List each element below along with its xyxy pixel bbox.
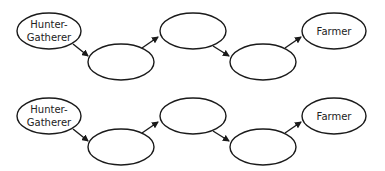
flow-row-1: Hunter- Gatherer Farmer [17, 13, 366, 80]
arrow-icon [285, 37, 301, 48]
node-label: Hunter- [30, 104, 68, 115]
node-blank-step-2[interactable] [160, 98, 226, 134]
arrow-icon [213, 46, 229, 56]
node-blank-step-3[interactable] [230, 129, 296, 165]
node-blank-step-1[interactable] [88, 129, 154, 165]
node-label: Gatherer [27, 32, 72, 43]
arrow-icon [213, 131, 229, 141]
arrow-icon [73, 129, 88, 141]
arrow-icon [285, 122, 301, 133]
node-blank-step-3[interactable] [230, 44, 296, 80]
flow-row-2: Hunter- Gatherer Farmer [17, 98, 366, 165]
node-label: Hunter- [30, 19, 68, 30]
arrow-icon [142, 122, 158, 133]
node-label: Gatherer [27, 117, 72, 128]
diagram-canvas: Hunter- Gatherer Farmer Hunter- Gatherer… [0, 0, 385, 171]
arrow-icon [142, 37, 158, 48]
node-blank-step-2[interactable] [160, 13, 226, 49]
node-blank-step-1[interactable] [88, 44, 154, 80]
node-label: Farmer [317, 111, 353, 122]
arrow-icon [73, 44, 88, 56]
node-label: Farmer [317, 26, 353, 37]
